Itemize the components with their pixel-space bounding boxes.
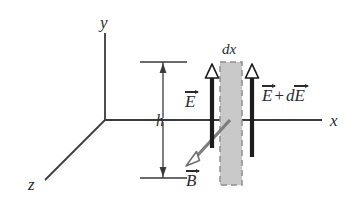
- e-field-right-symbol-1: E: [262, 85, 272, 104]
- h-up-arrowhead: [160, 63, 167, 73]
- b-field-hollow-arrowhead: [186, 152, 200, 167]
- b-field-symbol: B: [186, 170, 196, 189]
- dx-slab-fill: [220, 62, 242, 185]
- dx-slab-label: dx: [222, 42, 236, 57]
- e-field-right-label: E+dE: [262, 85, 305, 104]
- b-field-label: B: [186, 170, 196, 189]
- z-axis-label: z: [28, 176, 35, 193]
- e-field-left-label: E: [185, 91, 195, 110]
- e-field-left-hollow-arrowhead: [206, 64, 219, 78]
- e-field-arrow-right: [246, 64, 259, 157]
- x-axis-label: x: [330, 112, 338, 129]
- y-axis-label: y: [100, 14, 108, 31]
- e-field-plus-operator: +: [272, 86, 286, 105]
- h-dimension-label: h: [156, 113, 164, 129]
- z-axis-line: [45, 120, 105, 180]
- e-field-right-hollow-arrowhead: [246, 64, 259, 78]
- dx-slab: [220, 62, 242, 185]
- coordinate-axes: [45, 33, 322, 180]
- physics-diagram-figure: y x z h dx E E+dE B: [0, 0, 355, 207]
- e-field-right-symbol-2: E: [294, 85, 304, 104]
- e-field-left-symbol: E: [185, 91, 195, 110]
- h-down-arrowhead: [160, 167, 167, 177]
